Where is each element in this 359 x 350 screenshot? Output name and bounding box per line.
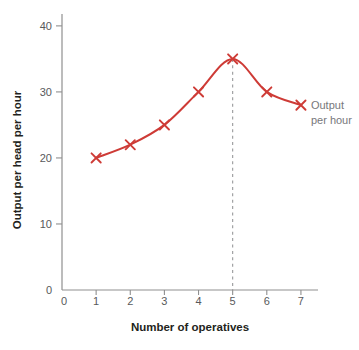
annotation-layer: Outputper hour bbox=[311, 99, 352, 126]
series-label-line: per hour bbox=[311, 114, 352, 126]
x-tick-label: 5 bbox=[230, 295, 236, 307]
data-point-marker bbox=[296, 101, 305, 110]
y-tick-label: 10 bbox=[40, 218, 52, 230]
x-tick-label: 1 bbox=[93, 295, 99, 307]
data-point-marker bbox=[262, 87, 271, 96]
data-point-marker bbox=[126, 140, 135, 149]
y-tick-label: 0 bbox=[46, 284, 52, 296]
data-point-marker bbox=[160, 120, 169, 129]
x-tick-label: 2 bbox=[127, 295, 133, 307]
x-tick-label: 0 bbox=[61, 295, 67, 307]
series-curve bbox=[96, 59, 301, 158]
line-chart: 01020304001234567 Outputper hour Output … bbox=[0, 0, 359, 350]
y-tick-label: 20 bbox=[40, 152, 52, 164]
y-tick-label: 40 bbox=[40, 20, 52, 32]
axes-layer: 01020304001234567 bbox=[40, 14, 318, 307]
series-layer bbox=[92, 54, 306, 162]
x-tick-label: 4 bbox=[195, 295, 201, 307]
data-point-marker bbox=[194, 87, 203, 96]
x-tick-label: 3 bbox=[161, 295, 167, 307]
y-axis-title: Output per head per hour bbox=[11, 90, 23, 229]
series-label-line: Output bbox=[311, 99, 344, 111]
chart-figure: 01020304001234567 Outputper hour Output … bbox=[0, 0, 359, 350]
x-tick-label: 6 bbox=[264, 295, 270, 307]
y-tick-label: 30 bbox=[40, 86, 52, 98]
x-axis-title: Number of operatives bbox=[131, 321, 249, 333]
x-tick-label: 7 bbox=[298, 295, 304, 307]
data-point-marker bbox=[92, 153, 101, 162]
